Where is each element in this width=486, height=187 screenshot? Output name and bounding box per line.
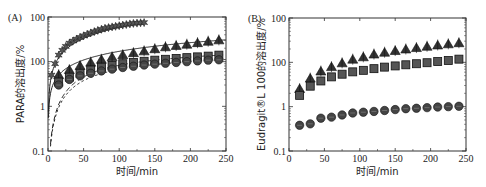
fit-curve-triangles [48, 40, 225, 118]
figure: 0501001502002500.11100100(A)时间/minPARA的溶… [0, 0, 486, 187]
y-tick-label: 100 [30, 12, 45, 23]
plot-frame [289, 18, 466, 151]
y-tick-label: 100 [30, 56, 45, 67]
y-tick-label: 0.1 [33, 146, 46, 157]
x-tick-label: 100 [352, 153, 367, 164]
square-marker [391, 62, 399, 70]
y-tick-label: 1 [40, 101, 45, 112]
square-marker [434, 58, 442, 66]
x-axis-title: 时间/min [116, 165, 158, 177]
x-tick-label: 200 [423, 153, 438, 164]
panel-b-chart: 0501001502002500.11100100(B)时间/minEudrag… [248, 13, 474, 178]
square-marker [370, 65, 378, 73]
series-squares [296, 55, 463, 99]
square-marker [402, 61, 410, 69]
square-marker [423, 59, 431, 67]
x-tick-label: 100 [112, 153, 127, 164]
x-tick-label: 0 [287, 153, 292, 164]
y-axis-title: Eudragit®L 100的溶出度/% [255, 18, 267, 151]
square-marker [381, 63, 389, 71]
x-tick-label: 200 [183, 153, 198, 164]
square-marker [412, 60, 420, 68]
square-marker [306, 82, 314, 90]
y-tick-label: 0.1 [274, 146, 287, 157]
square-marker [327, 73, 335, 81]
square-marker [349, 68, 357, 76]
x-tick-label: 0 [46, 153, 51, 164]
square-marker [455, 55, 463, 63]
x-tick-label: 50 [319, 153, 329, 164]
panel-label: (A) [8, 12, 22, 24]
x-tick-label: 150 [388, 153, 403, 164]
x-tick-label: 250 [459, 153, 474, 164]
square-marker [359, 66, 367, 74]
square-marker [296, 91, 304, 99]
square-marker [338, 70, 346, 78]
x-tick-label: 250 [219, 153, 234, 164]
y-axis-title: PARA的溶出度/% [14, 45, 26, 124]
star-marker [52, 60, 59, 68]
y-tick-label: 100 [271, 13, 286, 24]
x-tick-label: 150 [147, 153, 162, 164]
x-axis-title: 时间/min [356, 165, 398, 177]
y-tick-label: 100 [271, 57, 286, 68]
square-marker [444, 56, 452, 64]
series-circles [295, 102, 463, 129]
square-marker [317, 77, 325, 85]
panel-a-chart: 0501001502002500.11100100(A)时间/minPARA的溶… [8, 12, 234, 178]
y-tick-label: 1 [281, 101, 286, 112]
x-tick-label: 50 [79, 153, 89, 164]
